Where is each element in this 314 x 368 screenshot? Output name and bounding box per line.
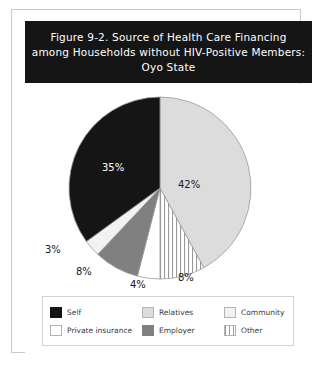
legend-swatch-relatives-icon [142, 307, 154, 318]
pie-chart: 35% 42% 3% 8% 4% 8% [68, 96, 252, 280]
legend-label-self: Self [67, 308, 81, 317]
legend-label-relatives: Relatives [159, 308, 193, 317]
pie-label-community: 3% [45, 244, 61, 255]
chart-legend: Self Relatives Community Private insuran… [42, 296, 294, 346]
figure-frame: Figure 9-2. Source of Health Care Financ… [11, 9, 301, 353]
legend-swatch-community-icon [224, 307, 236, 318]
plot-area: 35% 42% 3% 8% 4% 8% Self Relatives Commu… [25, 84, 312, 363]
figure-title: Figure 9-2. Source of Health Care Financ… [25, 21, 312, 83]
legend-item-community[interactable]: Community [224, 303, 302, 321]
pie-label-private: 4% [130, 279, 146, 290]
figure-title-line-2: among Households without HIV-Positive Me… [32, 45, 306, 60]
legend-item-relatives[interactable]: Relatives [142, 303, 224, 321]
legend-swatch-employer-icon [142, 325, 154, 336]
pie-label-other: 8% [178, 272, 194, 283]
legend-item-other[interactable]: Other [224, 321, 302, 339]
pie-label-relatives: 42% [178, 179, 200, 190]
figure-title-line-3: Oyo State [142, 60, 196, 75]
pie-slices [69, 97, 251, 279]
legend-swatch-other-icon [224, 325, 236, 336]
pie-svg [68, 96, 252, 280]
legend-label-community: Community [241, 308, 284, 317]
legend-swatch-private-insurance-icon [50, 325, 62, 336]
pie-label-self: 35% [102, 162, 124, 173]
legend-label-employer: Employer [159, 326, 195, 335]
legend-item-employer[interactable]: Employer [142, 321, 224, 339]
legend-label-other: Other [241, 326, 262, 335]
legend-item-private-insurance[interactable]: Private insurance [50, 321, 142, 339]
legend-label-private-insurance: Private insurance [67, 326, 132, 335]
pie-label-employer: 8% [76, 266, 92, 277]
legend-swatch-self-icon [50, 307, 62, 318]
legend-item-self[interactable]: Self [50, 303, 142, 321]
figure-title-line-1: Figure 9-2. Source of Health Care Financ… [50, 30, 286, 45]
